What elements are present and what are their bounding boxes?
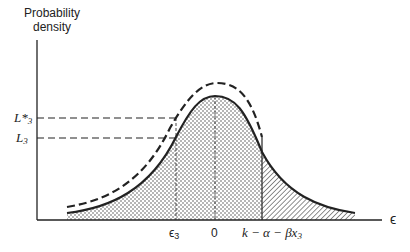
x-axis-label: ϵ: [390, 212, 396, 226]
y-axis-label-line2: density: [12, 20, 92, 34]
probability-density-diagram: [0, 0, 410, 252]
y-tick-L-star-3: L*3: [14, 111, 32, 128]
x-tick-zero: 0: [211, 226, 218, 240]
x-tick-threshold: k − α − βx3: [242, 226, 302, 243]
y-axis-label: Probability density: [12, 6, 92, 34]
x-tick-eps3: ϵ3: [169, 226, 179, 243]
y-tick-L3: L3: [16, 131, 28, 148]
y-axis-label-line1: Probability: [12, 6, 92, 20]
